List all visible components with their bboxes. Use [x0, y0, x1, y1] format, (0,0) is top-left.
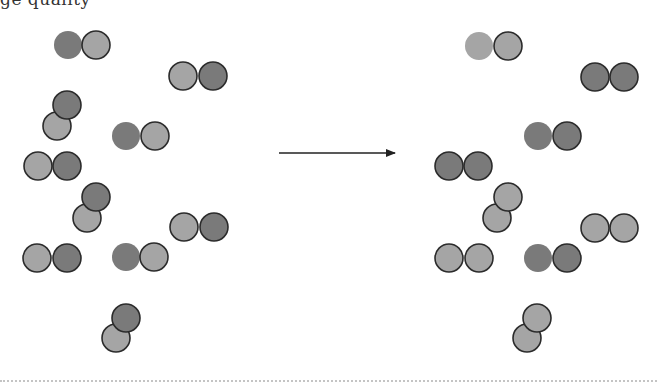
light-atom-circle [169, 62, 197, 90]
light-atom-circle [23, 244, 51, 272]
light-atom-circle [494, 183, 522, 211]
light-atom-circle [523, 304, 551, 332]
reactant-molecule-3 [43, 91, 81, 140]
reactant-molecule-7 [170, 213, 228, 241]
light-atom-circle [170, 213, 198, 241]
reactant-molecule-5 [24, 152, 81, 180]
product-molecule-6 [581, 214, 638, 242]
dark-atom-circle [524, 244, 552, 272]
reactant-molecule-8 [23, 244, 81, 272]
light-atom-circle [141, 122, 169, 150]
product-molecule-2 [581, 63, 638, 91]
product-molecule-5 [483, 183, 522, 232]
reactant-molecule-6 [73, 183, 110, 232]
dark-atom-circle [524, 122, 552, 150]
dark-atom-circle [199, 62, 227, 90]
dark-atom-circle [553, 244, 581, 272]
dark-atom-circle [610, 63, 638, 91]
light-atom-circle [610, 214, 638, 242]
reactant-molecule-1 [54, 31, 110, 59]
product-molecules [435, 32, 638, 352]
reactant-molecule-9 [112, 243, 168, 271]
light-atom-circle [24, 152, 52, 180]
dark-atom-circle [435, 152, 463, 180]
product-molecule-9 [513, 304, 551, 352]
product-molecule-8 [524, 244, 581, 272]
reactant-molecule-2 [169, 62, 227, 90]
dark-atom-circle [464, 152, 492, 180]
light-atom-circle [494, 32, 522, 60]
product-molecule-7 [435, 244, 493, 272]
light-atom-circle [435, 244, 463, 272]
dark-atom-circle [112, 243, 140, 271]
dark-atom-circle [82, 183, 110, 211]
light-atom-circle [465, 244, 493, 272]
dark-atom-circle [53, 91, 81, 119]
reactant-molecules [23, 31, 228, 352]
product-molecule-1 [465, 32, 522, 60]
dark-atom-circle [53, 244, 81, 272]
light-atom-circle [82, 31, 110, 59]
reactant-molecule-4 [112, 122, 169, 150]
dark-atom-circle [200, 213, 228, 241]
dark-atom-circle [112, 122, 140, 150]
dark-atom-circle [53, 152, 81, 180]
light-atom-circle [465, 32, 493, 60]
light-atom-circle [140, 243, 168, 271]
dark-atom-circle [553, 122, 581, 150]
reaction-diagram [0, 0, 657, 388]
reactant-molecule-10 [102, 304, 140, 352]
dark-atom-circle [54, 31, 82, 59]
dark-atom-circle [112, 304, 140, 332]
divider-dotted-line [0, 380, 657, 382]
dark-atom-circle [581, 63, 609, 91]
product-molecule-3 [524, 122, 581, 150]
product-molecule-4 [435, 152, 492, 180]
light-atom-circle [581, 214, 609, 242]
